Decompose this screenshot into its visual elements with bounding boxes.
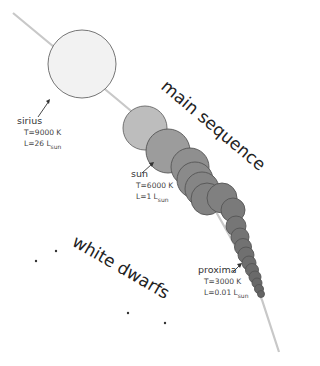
star-sirius (48, 30, 116, 98)
sirius-temperature-label: T=9000 K (23, 128, 62, 137)
white-dwarfs-label: white dwarfs (69, 231, 173, 303)
proxima-luminosity-label: L=0.01 Lsun (204, 288, 249, 299)
star-ms (258, 291, 265, 298)
white-dwarf-dot (35, 260, 37, 262)
sun-temperature-label: T=6000 K (135, 181, 174, 190)
sirius-name-label: sirius (17, 115, 42, 126)
proxima-temperature-label: T=3000 K (203, 277, 242, 286)
sirius-luminosity-label: L=26 Lsun (24, 139, 62, 150)
white-dwarf-dot (127, 312, 129, 314)
sun-luminosity-label: L=1 Lsun (136, 192, 169, 203)
white-dwarf-dot (55, 250, 57, 252)
proxima-name-label: proxima (198, 264, 237, 275)
main-sequence-diagram: sirius T=9000 K L=26 Lsun sun T=6000 K L… (0, 0, 320, 366)
white-dwarf-dot (164, 322, 166, 324)
sun-name-label: sun (131, 168, 148, 179)
